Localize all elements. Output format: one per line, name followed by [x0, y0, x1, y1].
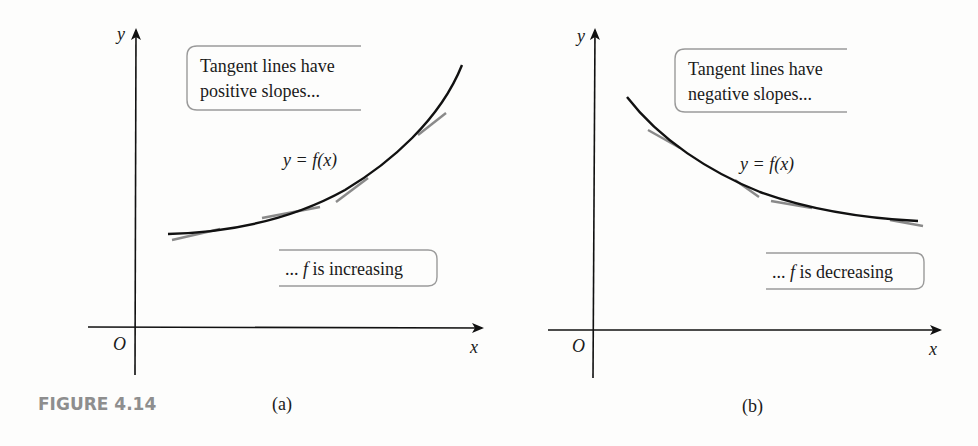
y-axis: [135, 30, 136, 375]
panel-b: y x O y = f(x) Tangent lines have negati…: [548, 26, 940, 417]
figure-canvas: y x O y = f(x) Tangent lines have positi…: [0, 0, 978, 446]
panel-a: y x O y = f(x) Tangent lines have positi…: [88, 24, 482, 415]
top-note-line2: negative slopes...: [688, 84, 812, 104]
y-axis: [593, 30, 595, 378]
x-axis-label: x: [928, 339, 937, 359]
top-note-line1: Tangent lines have: [688, 59, 823, 79]
bottom-note-text: ... f is decreasing: [772, 262, 893, 282]
panel-caption: (b): [742, 396, 763, 417]
top-note-line1: Tangent lines have: [200, 56, 335, 76]
panel-caption: (a): [272, 394, 292, 415]
figure-label: FIGURE 4.14: [38, 394, 156, 414]
y-axis-label: y: [575, 26, 585, 46]
tangent-line: [336, 178, 368, 202]
bottom-note-text: ... f is increasing: [285, 259, 403, 279]
origin-label: O: [572, 336, 585, 356]
origin-label: O: [113, 334, 126, 354]
y-axis-label: y: [115, 24, 125, 44]
curve-label: y = f(x): [738, 154, 794, 175]
x-axis: [88, 327, 482, 328]
curve-label: y = f(x): [281, 150, 337, 171]
top-note-line2: positive slopes...: [200, 81, 320, 101]
x-axis-label: x: [469, 337, 478, 357]
